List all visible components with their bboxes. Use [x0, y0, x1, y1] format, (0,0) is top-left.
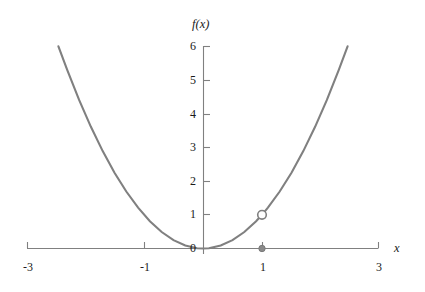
x-tick-label--3: -3: [13, 261, 43, 273]
y-tick-label-6: 6: [182, 40, 196, 52]
y-tick-label-3: 3: [182, 141, 196, 153]
x-tick-label--1: -1: [130, 261, 160, 273]
y-axis-ticks: [204, 47, 211, 215]
filled-dot-icon: [259, 245, 265, 251]
plot-canvas: [0, 0, 425, 292]
x-tick-label-3: 3: [364, 261, 394, 273]
y-axis-title: f(x): [192, 18, 209, 31]
y-tick-label-4: 4: [182, 108, 196, 120]
chart-figure: 6 5 4 3 2 1 0 -3 -1 1 3 f(x) x: [0, 0, 425, 292]
x-tick-label-1: 1: [248, 261, 278, 273]
x-axis-title: x: [394, 242, 400, 255]
y-tick-label-0: 0: [182, 242, 196, 254]
y-tick-label-1: 1: [182, 208, 196, 220]
y-tick-label-5: 5: [182, 74, 196, 86]
y-tick-label-2: 2: [182, 175, 196, 187]
open-circle-icon: [258, 211, 267, 220]
